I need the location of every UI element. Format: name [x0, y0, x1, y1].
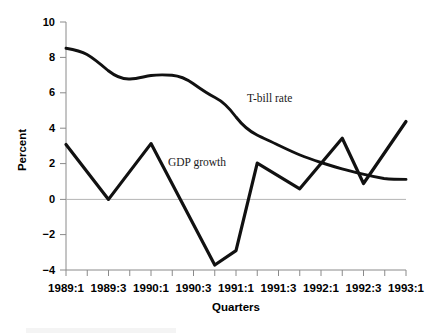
y-tick-label-4: 4 — [49, 122, 56, 134]
series-annotation-tbill-rate: T-bill rate — [247, 92, 292, 104]
x-tick-label-1991-1: 1991:1 — [218, 282, 254, 294]
x-tick-label-1992-1: 1992:1 — [303, 282, 339, 294]
y-axis-title: Percent — [16, 129, 28, 171]
x-tick-label-1989-1: 1989:1 — [48, 282, 84, 294]
y-tick-label-2: 2 — [49, 157, 55, 169]
x-axis-title: Quarters — [212, 301, 260, 313]
x-tick-label-1989-3: 1989:3 — [91, 282, 127, 294]
x-tick-label-1990-1: 1990:1 — [133, 282, 169, 294]
economic-line-chart: 10 8 6 4 2 0 −2 −4 1989:1 — [0, 0, 444, 335]
series-annotation-gdp-growth: GDP growth — [168, 156, 226, 169]
y-tick-label-6: 6 — [49, 86, 55, 98]
y-tick-label-neg2: −2 — [42, 228, 55, 240]
y-tick-label-neg4: −4 — [42, 264, 55, 276]
x-tick-label-1990-3: 1990:3 — [176, 282, 212, 294]
x-tick-label-1993-1: 1993:1 — [388, 282, 424, 294]
x-tick-label-1992-3: 1992:3 — [346, 282, 382, 294]
y-tick-label-8: 8 — [49, 51, 55, 63]
y-tick-label-10: 10 — [43, 16, 55, 28]
page-scan-artifact — [26, 328, 176, 333]
chart-container: 10 8 6 4 2 0 −2 −4 1989:1 — [0, 0, 444, 335]
x-tick-label-1991-3: 1991:3 — [261, 282, 297, 294]
y-tick-label-0: 0 — [49, 193, 55, 205]
